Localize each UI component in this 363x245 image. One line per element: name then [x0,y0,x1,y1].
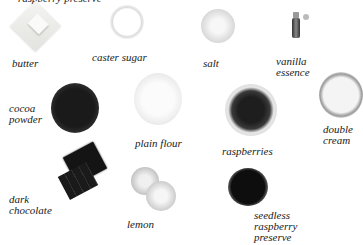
butter-image [11,1,62,52]
plain-flour-label: plain flour [135,138,182,149]
cocoa-powder-label: cocoa powder [9,103,42,125]
cutoff-caption: raspberry preserve [18,0,102,4]
seedless-raspberry-preserve-label: seedless raspberry preserve [254,210,297,243]
caster-sugar-label: caster sugar [92,52,147,63]
raspberries-image [225,84,277,136]
butter-label: butter [12,58,38,69]
raspberries-label: raspberries [222,146,273,157]
raspberry-preserve-image [228,168,268,206]
butter-block [28,13,49,34]
double-cream-image [319,72,363,118]
vanilla-lid [303,14,309,20]
plain-flour-image [134,73,182,125]
dark-chocolate-label: dark chocolate [9,194,52,216]
salt-image [201,9,235,43]
salt-label: salt [203,58,219,69]
caster-sugar-image [110,5,144,39]
vanilla-bottle [292,18,300,38]
lemon-label: lemon [127,219,154,230]
lemon-half-image [146,181,176,211]
vanilla-essence-label: vanilla essence [276,56,310,78]
vanilla-essence-image [292,12,300,38]
cocoa-powder-image [51,83,99,133]
double-cream-label: double cream [323,124,353,146]
